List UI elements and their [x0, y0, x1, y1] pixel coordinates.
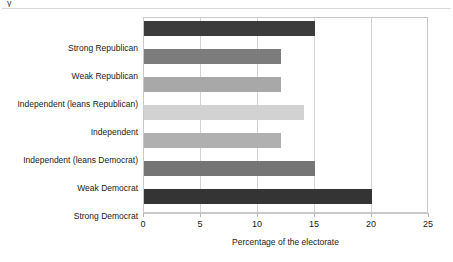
x-tick-label: 15	[299, 219, 329, 230]
plot-area	[143, 17, 428, 213]
gridline-15	[314, 18, 315, 212]
x-axis-line	[143, 213, 428, 214]
x-tick-label: 10	[242, 219, 272, 230]
x-tick-label: 25	[413, 219, 443, 230]
bar-independent-leans-republican	[144, 77, 281, 92]
plot-inner	[144, 18, 427, 212]
category-label: Independent (leans Republican)	[0, 99, 138, 109]
x-tick-25	[428, 213, 429, 217]
x-tick-15	[314, 213, 315, 217]
category-label: Strong Republican	[0, 43, 138, 53]
category-axis-labels: Strong Republican Weak Republican Indepe…	[0, 17, 138, 213]
cropped-text-fragment: y	[7, 0, 14, 7]
category-label: Independent	[0, 127, 138, 137]
category-label: Weak Republican	[0, 71, 138, 81]
bar-strong-republican	[144, 21, 315, 36]
x-tick-20	[371, 213, 372, 217]
x-tick-10	[257, 213, 258, 217]
gridline-20	[371, 18, 372, 212]
x-tick-label: 5	[185, 219, 215, 230]
bar-strong-democrat	[144, 189, 372, 204]
x-tick-label: 20	[356, 219, 386, 230]
x-tick-label: 0	[128, 219, 158, 230]
bar-weak-democrat	[144, 161, 315, 176]
x-tick-0	[143, 213, 144, 217]
x-axis-title: Percentage of the electorate	[143, 237, 428, 248]
bar-weak-republican	[144, 49, 281, 64]
header-divider	[2, 8, 451, 9]
bar-independent	[144, 105, 304, 120]
chart-figure: y Strong Republican Weak Republican Inde…	[0, 0, 453, 262]
category-label: Independent (leans Democrat)	[0, 155, 138, 165]
category-label: Weak Democrat	[0, 183, 138, 193]
category-label: Strong Democrat	[0, 211, 138, 221]
x-tick-5	[200, 213, 201, 217]
bar-independent-leans-democrat	[144, 133, 281, 148]
